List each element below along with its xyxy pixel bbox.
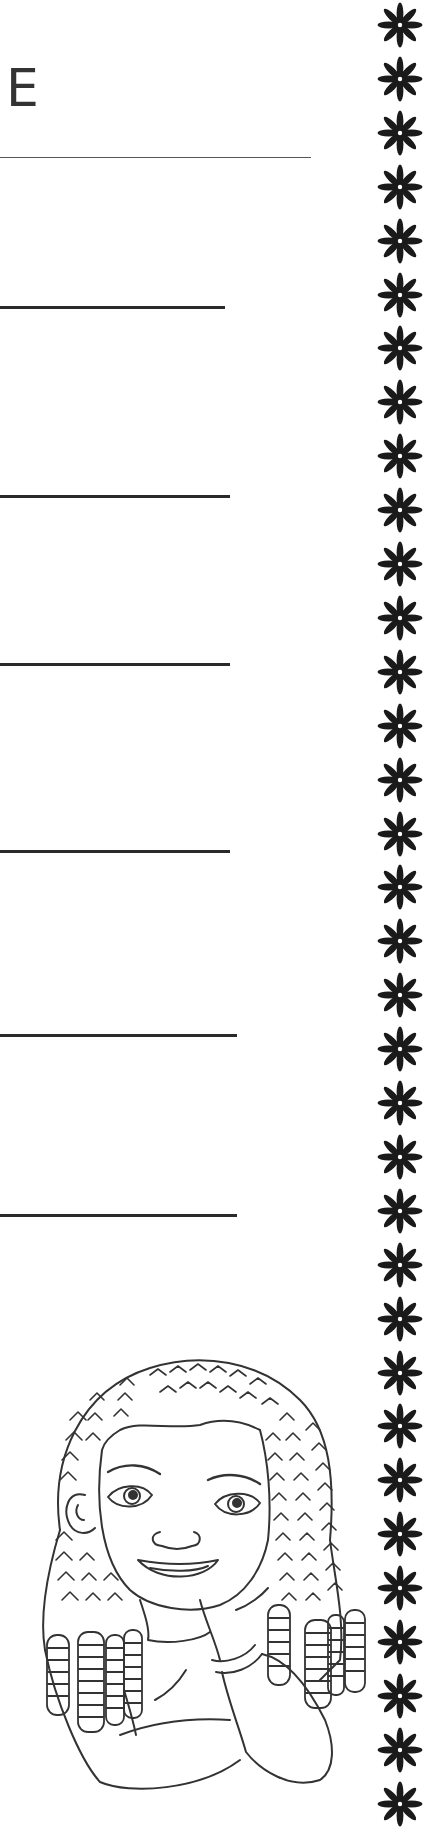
- braids-right: [266, 1413, 342, 1600]
- braids-left: [56, 1378, 134, 1600]
- eight-petal-flower-icon: [377, 433, 423, 479]
- right-eye: [215, 1494, 260, 1515]
- eight-petal-flower-icon: [377, 864, 423, 910]
- eight-petal-flower-icon: [377, 757, 423, 803]
- eight-petal-flower-icon: [377, 164, 423, 210]
- eight-petal-flower-icon: [377, 1403, 423, 1449]
- braids-top: [150, 1364, 278, 1404]
- eight-petal-flower-icon: [377, 1457, 423, 1503]
- eight-petal-flower-icon: [377, 972, 423, 1018]
- eight-petal-flower-icon: [377, 379, 423, 425]
- eight-petal-flower-icon: [377, 595, 423, 641]
- flower-border: [377, 0, 423, 1830]
- eight-petal-flower-icon: [377, 703, 423, 749]
- eight-petal-flower-icon: [377, 487, 423, 533]
- writing-line: [0, 495, 230, 498]
- beaded-braids-left: [47, 1630, 142, 1732]
- eight-petal-flower-icon: [377, 1727, 423, 1773]
- eight-petal-flower-icon: [377, 110, 423, 156]
- eight-petal-flower-icon: [377, 649, 423, 695]
- left-eyebrow: [108, 1465, 160, 1474]
- page-title-fragment: E: [6, 62, 39, 114]
- eight-petal-flower-icon: [377, 1350, 423, 1396]
- writing-line: [0, 850, 230, 853]
- ear: [66, 1494, 95, 1533]
- right-eyebrow: [208, 1475, 260, 1484]
- eight-petal-flower-icon: [377, 218, 423, 264]
- eight-petal-flower-icon: [377, 1673, 423, 1719]
- nose: [153, 1532, 200, 1549]
- face-outline: [99, 1421, 269, 1610]
- writing-line: [0, 306, 225, 309]
- eight-petal-flower-icon: [377, 1134, 423, 1180]
- eight-petal-flower-icon: [377, 1296, 423, 1342]
- eight-petal-flower-icon: [377, 918, 423, 964]
- eight-petal-flower-icon: [377, 1781, 423, 1827]
- girl-illustration: [30, 1355, 370, 1825]
- eight-petal-flower-icon: [377, 1619, 423, 1665]
- eight-petal-flower-icon: [377, 1026, 423, 1072]
- header-rule: [0, 157, 311, 158]
- eight-petal-flower-icon: [377, 1565, 423, 1611]
- eight-petal-flower-icon: [377, 1188, 423, 1234]
- arms: [222, 1654, 332, 1783]
- writing-line: [0, 663, 230, 666]
- eight-petal-flower-icon: [377, 811, 423, 857]
- eight-petal-flower-icon: [377, 1080, 423, 1126]
- writing-line: [0, 1214, 237, 1217]
- hand: [200, 1588, 268, 1660]
- eight-petal-flower-icon: [377, 541, 423, 587]
- eight-petal-flower-icon: [377, 272, 423, 318]
- neck: [140, 1600, 210, 1642]
- eight-petal-flower-icon: [377, 56, 423, 102]
- eight-petal-flower-icon: [377, 1242, 423, 1288]
- writing-line: [0, 1034, 237, 1037]
- eight-petal-flower-icon: [377, 2, 423, 48]
- eight-petal-flower-icon: [377, 1511, 423, 1557]
- beaded-braids-right: [268, 1605, 365, 1708]
- left-eye: [108, 1486, 152, 1506]
- eight-petal-flower-icon: [377, 325, 423, 371]
